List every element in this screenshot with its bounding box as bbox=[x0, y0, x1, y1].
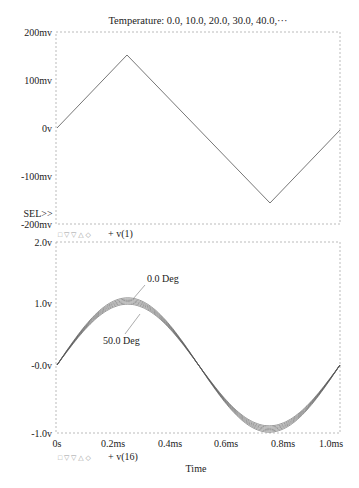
x-tick: 0.6ms bbox=[214, 438, 238, 449]
sel-marker: SEL>> bbox=[23, 208, 52, 219]
trace-v16 bbox=[57, 304, 340, 426]
y-tick: -200mv bbox=[21, 219, 52, 230]
y-tick: 1.0v bbox=[35, 298, 53, 309]
y-tick: 0v bbox=[42, 123, 52, 134]
x-tick: 0.4ms bbox=[158, 438, 182, 449]
trace-v16-family bbox=[57, 298, 340, 432]
x-axis-label: Time bbox=[186, 463, 207, 474]
y-tick: -100mv bbox=[21, 171, 52, 182]
y-tick: 100mv bbox=[24, 75, 52, 86]
bottom-plot: 2.0v 1.0v -0.0v -1.0v 0.0 Deg 50.0 Deg 0… bbox=[31, 237, 343, 474]
y-tick: 2.0v bbox=[35, 237, 53, 248]
x-tick: 1.0ms bbox=[319, 438, 343, 449]
legend-label-top[interactable]: + v(1) bbox=[108, 228, 133, 240]
legend-markers-top: □ ▽ ▽ △ ◇ bbox=[58, 231, 91, 239]
x-tick: 0.8ms bbox=[271, 438, 295, 449]
chart-canvas: Temperature: 0.0, 10.0, 20.0, 30.0, 40.0… bbox=[0, 0, 359, 488]
annotation-arrow bbox=[133, 285, 145, 299]
x-tick: 0s bbox=[53, 438, 62, 449]
x-tick: 0.2ms bbox=[101, 438, 125, 449]
annotation-50deg: 50.0 Deg bbox=[103, 335, 140, 346]
y-tick: 200mv bbox=[24, 27, 52, 38]
legend-label-bottom[interactable]: + v(16) bbox=[108, 451, 138, 463]
annotation-0deg: 0.0 Deg bbox=[147, 273, 179, 284]
legend-markers-bottom: □ ▽ ▽ △ ◇ bbox=[58, 454, 91, 462]
bottom-plot-frame bbox=[56, 242, 340, 433]
trace-v1 bbox=[57, 55, 340, 203]
annotation-arrow bbox=[125, 314, 140, 334]
y-tick: -1.0v bbox=[31, 428, 52, 439]
top-plot: 200mv 100mv 0v -100mv SEL>> -200mv □ ▽ ▽… bbox=[21, 27, 340, 240]
chart-title: Temperature: 0.0, 10.0, 20.0, 30.0, 40.0… bbox=[108, 15, 287, 26]
y-tick: -0.0v bbox=[31, 360, 52, 371]
